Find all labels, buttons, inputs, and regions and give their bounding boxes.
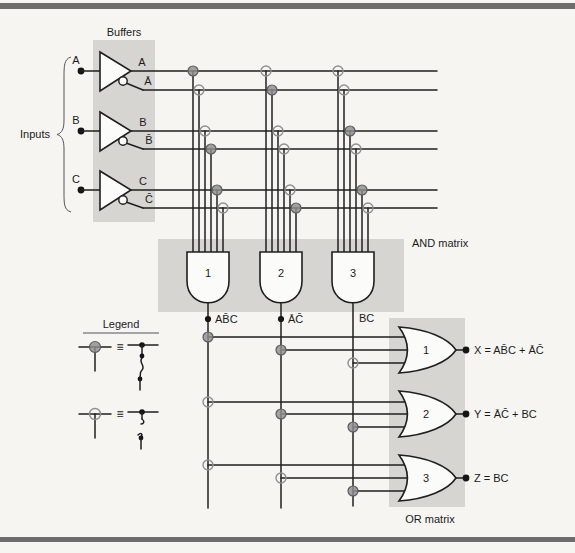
- product-1-label: AB̄C: [215, 313, 238, 325]
- or-fuse-g3-p3-intact: [348, 486, 358, 496]
- and-fuse-g1-r5-intact: [212, 185, 222, 195]
- or-matrix-label: OR matrix: [405, 513, 455, 525]
- inputs-label: Inputs: [20, 128, 50, 140]
- output-z-equation: Z = BC: [474, 472, 509, 484]
- buffer-b-out-label: B: [139, 116, 146, 128]
- legend-intact-fuse-icon: [90, 342, 101, 353]
- legend-equiv-2: ≡: [116, 407, 123, 421]
- or-gate-1-num: 1: [423, 344, 429, 356]
- and-fuse-g2-r6-intact: [291, 203, 301, 213]
- bottom-frame-bar: [0, 537, 575, 542]
- or-gate-3-num: 3: [423, 472, 429, 484]
- buffer-a-inv-label: Ā: [144, 75, 152, 87]
- and-fuse-g3-r3-intact: [345, 126, 355, 136]
- buffer-a-out-label: A: [138, 56, 146, 68]
- legend: Legend ≡ ≡: [79, 318, 159, 449]
- buffer-a-inverter-bubble-icon: [119, 77, 127, 85]
- output-x-node: [463, 347, 470, 354]
- input-c-label: C: [72, 173, 80, 185]
- and-matrix-fuse-layer: [188, 66, 373, 252]
- and-matrix-label: AND matrix: [412, 237, 469, 249]
- buffer-b-inv-label: B̄: [145, 134, 152, 146]
- product-2-node: [278, 316, 284, 322]
- scanned-figure-page: Buffers AND matrix OR matrix Inputs A B …: [0, 0, 575, 553]
- buffer-c-inv-label: C̄: [145, 193, 153, 205]
- legend-intact-fuse-squiggle: [140, 358, 143, 377]
- output-y-node: [463, 411, 470, 418]
- and-fuse-g3-r5-intact: [357, 185, 367, 195]
- or-gates: 1 2 3 X = AB̄C + ĀC̄ Y = ĀC̄ + BC Z = …: [399, 327, 544, 501]
- input-a-label: A: [72, 54, 80, 66]
- buffer-b-inverter-bubble-icon: [119, 137, 127, 145]
- or-fuse-g2-p2-intact: [276, 409, 286, 419]
- or-gate-2-num: 2: [423, 408, 429, 420]
- or-matrix-fuse-layer: [203, 332, 412, 496]
- row-wires: [126, 71, 437, 208]
- buffer-c-inverter-bubble-icon: [119, 196, 127, 204]
- input-b-label: B: [72, 114, 79, 126]
- and-gate-1-num: 1: [205, 267, 211, 279]
- and-fuse-g1-r4-intact: [206, 144, 216, 154]
- legend-title: Legend: [103, 318, 140, 330]
- and-gates: 1 2 3: [187, 252, 374, 303]
- output-z-node: [463, 475, 470, 482]
- buffers-label: Buffers: [107, 26, 142, 38]
- product-3-label: BC: [359, 312, 374, 324]
- or-fuse-g2-p3-intact: [348, 422, 358, 432]
- and-fuse-g1-r1-intact: [188, 66, 198, 76]
- product-2-label: ĀC̄: [288, 313, 303, 325]
- or-fuse-g1-p1-intact: [203, 332, 213, 342]
- and-fuse-g2-r2-intact: [267, 85, 277, 95]
- inputs-group: Inputs A B C: [20, 54, 100, 212]
- pla-circuit-diagram: Buffers AND matrix OR matrix Inputs A B …: [0, 0, 575, 553]
- and-gate-3-num: 3: [350, 267, 356, 279]
- inputs-brace: [57, 57, 71, 212]
- buffer-c-out-label: C: [139, 175, 147, 187]
- top-frame-bar: [0, 3, 575, 9]
- and-gate-2-num: 2: [278, 267, 284, 279]
- product-1-node: [205, 316, 211, 322]
- output-y-equation: Y = ĀC̄ + BC: [474, 408, 537, 420]
- legend-blown-break-top: [141, 419, 144, 424]
- legend-equiv-1: ≡: [116, 340, 123, 354]
- output-x-equation: X = AB̄C + ĀC̄: [474, 344, 544, 356]
- or-fuse-g1-p2-intact: [276, 345, 286, 355]
